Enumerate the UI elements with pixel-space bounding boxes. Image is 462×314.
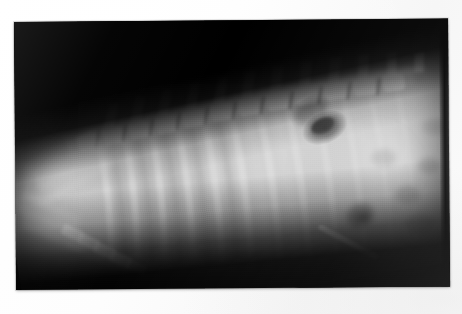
film-grain xyxy=(14,19,450,290)
radiograph-print: Lateral thoracic radiograph showing a br… xyxy=(14,19,450,290)
